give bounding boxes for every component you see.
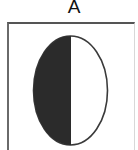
half-shaded-ellipse-figure [0,0,138,150]
